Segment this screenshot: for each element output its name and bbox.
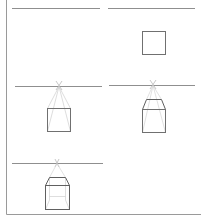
perspective-diagram [0,0,201,217]
vanishing-point-mark [150,80,156,89]
front-face-square [48,109,71,132]
panel-step-4 [109,80,195,133]
front-face-square [143,110,166,133]
panel-step-5 [12,159,103,210]
vanishing-point-mark [56,81,62,90]
panel-step-2 [108,9,195,55]
top-face-outline [46,178,70,186]
convergence-guides [50,164,66,178]
panel-step-3 [15,81,102,132]
front-face-square [46,186,70,210]
hidden-back-edges [46,178,70,210]
top-face-outline [143,100,166,110]
front-face-square [143,32,166,55]
